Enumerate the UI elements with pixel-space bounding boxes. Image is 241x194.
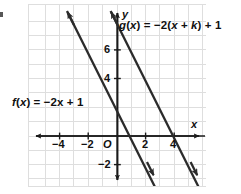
x-axis-label: x — [191, 119, 197, 130]
x-tick-label--2: −2 — [81, 139, 94, 150]
y-tick-label--2: −2 — [98, 159, 111, 170]
y-tick-label-6: 6 — [104, 44, 110, 55]
line-g — [111, 11, 205, 194]
origin-label: O — [103, 139, 112, 150]
coordinate-plane-figure: y x −4 −2 O 2 4 6 4 −2 f(x) = −2x + 1 g(… — [0, 0, 241, 194]
function-label-f: f(x) = −2x + 1 — [12, 97, 83, 109]
y-tick-label-4: 4 — [104, 73, 110, 84]
function-label-g: g(x) = −2(x + k) + 1 — [119, 20, 221, 32]
x-tick-label-2: 2 — [142, 139, 148, 150]
x-tick-label--4: −4 — [52, 139, 65, 150]
x-tick-label-4: 4 — [170, 139, 176, 150]
